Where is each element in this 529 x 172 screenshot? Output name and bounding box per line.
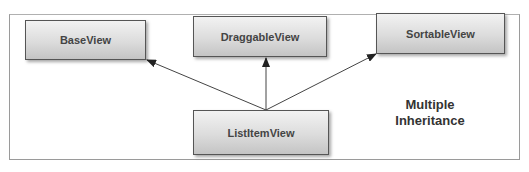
node-baseview: BaseView (25, 20, 146, 60)
caption-line-1: Multiple (380, 97, 480, 113)
caption-line-2: Inheritance (380, 113, 480, 129)
node-draggableview: DraggableView (193, 16, 327, 57)
node-label: SortableView (406, 28, 475, 40)
node-label: BaseView (60, 34, 111, 46)
arrow-to-baseview (147, 60, 266, 110)
arrow-to-sortableview (266, 54, 376, 110)
node-sortableview: SortableView (376, 13, 505, 54)
diagram-caption: Multiple Inheritance (380, 97, 480, 129)
node-label: ListItemView (227, 127, 294, 139)
node-label: DraggableView (221, 31, 300, 43)
node-listitemview: ListItemView (193, 110, 329, 155)
